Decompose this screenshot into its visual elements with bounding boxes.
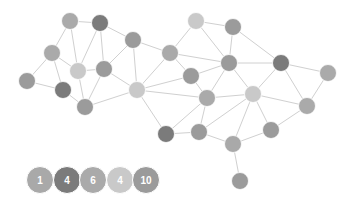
legend-count-label: 10 — [140, 175, 152, 186]
legend-count-label: 4 — [117, 175, 123, 186]
legend-item-g1[interactable]: 1 — [27, 167, 54, 194]
legend-item-g4[interactable]: 4 — [107, 167, 134, 194]
graph-node[interactable] — [221, 55, 238, 72]
graph-node[interactable] — [199, 90, 216, 107]
graph-node[interactable] — [191, 124, 208, 141]
network-diagram: 146410 — [0, 0, 350, 205]
graph-node[interactable] — [44, 45, 61, 62]
graph-node[interactable] — [92, 15, 109, 32]
legend-count-label: 6 — [90, 175, 96, 186]
legend-item-g3[interactable]: 6 — [80, 167, 107, 194]
graph-node[interactable] — [55, 82, 72, 99]
group-legend: 146410 — [27, 167, 160, 194]
graph-edge — [137, 90, 207, 98]
legend-item-g2[interactable]: 4 — [54, 167, 81, 194]
graph-edge — [233, 27, 281, 63]
legend-item-g5[interactable]: 10 — [133, 167, 160, 194]
graph-node[interactable] — [320, 65, 337, 82]
graph-node[interactable] — [62, 13, 79, 30]
graph-node[interactable] — [188, 13, 205, 30]
graph-node[interactable] — [245, 86, 262, 103]
graph-node[interactable] — [70, 63, 87, 80]
graph-node[interactable] — [162, 45, 179, 62]
legend-count-label: 4 — [64, 175, 70, 186]
graph-node[interactable] — [77, 99, 94, 116]
graph-node[interactable] — [263, 122, 280, 139]
graph-node[interactable] — [125, 32, 142, 49]
graph-node[interactable] — [225, 136, 242, 153]
node-layer — [19, 13, 337, 190]
graph-edge — [170, 53, 229, 63]
legend-count-label: 1 — [37, 175, 43, 186]
graph-node[interactable] — [158, 126, 175, 143]
graph-node[interactable] — [299, 98, 316, 115]
graph-node[interactable] — [232, 173, 249, 190]
graph-node[interactable] — [96, 61, 113, 78]
graph-node[interactable] — [19, 73, 36, 90]
graph-node[interactable] — [225, 19, 242, 36]
graph-node[interactable] — [129, 82, 146, 99]
edge-layer — [27, 21, 328, 181]
graph-node[interactable] — [183, 68, 200, 85]
graph-node[interactable] — [273, 55, 290, 72]
